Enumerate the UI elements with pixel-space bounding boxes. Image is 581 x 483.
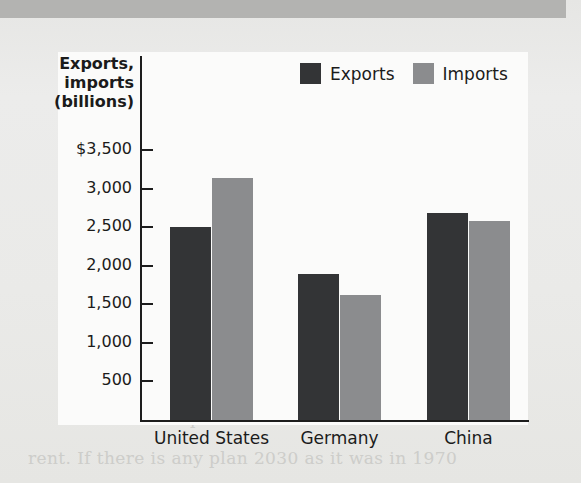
y-axis-line [140, 56, 142, 422]
y-axis-tick [142, 303, 153, 305]
bar-exports-china [427, 213, 468, 420]
bar-imports-china [469, 221, 510, 420]
y-axis-tick [142, 226, 153, 228]
y-axis-title-line-3: (billions) [18, 92, 134, 111]
y-axis-tick-label: 1,000 [36, 332, 132, 351]
y-axis-tick-label: 3,000 [36, 178, 132, 197]
y-axis-title-line-1: Exports, [18, 54, 134, 73]
chart-legend: Exports Imports [300, 63, 508, 84]
x-axis-label-china: China [389, 428, 549, 448]
legend-label-exports: Exports [330, 64, 395, 84]
legend-item-exports: Exports [300, 63, 395, 84]
y-axis-tick-label: 2,500 [36, 216, 132, 235]
y-axis-title: Exports, imports (billions) [18, 54, 134, 111]
legend-label-imports: Imports [443, 64, 508, 84]
y-axis-tick [142, 265, 153, 267]
y-axis-tick [142, 188, 153, 190]
bar-exports-germany [298, 274, 339, 420]
y-axis-tick [142, 149, 153, 151]
x-axis-line [140, 420, 529, 422]
y-axis-title-line-2: imports [18, 73, 134, 92]
y-axis-tick-label: 1,500 [36, 293, 132, 312]
legend-swatch-imports-icon [413, 63, 434, 84]
y-axis-tick-label: $3,500 [36, 139, 132, 158]
bar-imports-united-states [212, 178, 253, 420]
y-axis-tick [142, 380, 153, 382]
legend-swatch-exports-icon [300, 63, 321, 84]
bar-exports-united-states [170, 227, 211, 420]
bar-chart: Exports, imports (billions) 5001,0001,50… [0, 0, 581, 483]
y-axis-tick [142, 342, 153, 344]
bar-imports-germany [340, 295, 381, 420]
legend-item-imports: Imports [413, 63, 508, 84]
y-axis-tick-label: 2,000 [36, 255, 132, 274]
y-axis-tick-label: 500 [36, 370, 132, 389]
